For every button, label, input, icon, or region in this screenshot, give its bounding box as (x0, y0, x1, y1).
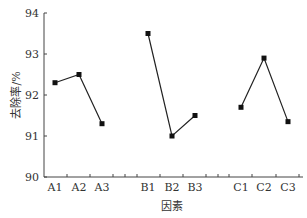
y-tick-label: 93 (25, 48, 39, 61)
data-point-marker (146, 31, 151, 36)
y-tick-label: 94 (25, 7, 39, 20)
x-tick-label: B3 (187, 181, 202, 194)
y-tick-label: 92 (25, 89, 39, 102)
series-group (53, 31, 291, 139)
data-point-marker (262, 56, 267, 61)
series-line-B (148, 34, 195, 137)
x-tick-label: A2 (71, 181, 87, 194)
line-chart: 9091929394A1A2A3B1B2B3C1C2C3 去除率/% 因素 (0, 0, 307, 218)
x-tick-label: C3 (280, 181, 295, 194)
x-tick-label: C2 (256, 181, 271, 194)
data-point-marker (286, 119, 291, 124)
data-point-marker (100, 121, 105, 126)
data-point-marker (77, 72, 82, 77)
y-tick-label: 90 (25, 171, 39, 184)
y-tick-label: 91 (25, 130, 39, 143)
x-tick-label: B2 (164, 181, 179, 194)
data-point-marker (239, 105, 244, 110)
x-tick-label: C1 (233, 181, 248, 194)
x-axis-label: 因素 (161, 200, 183, 213)
x-tick-label: B1 (140, 181, 155, 194)
x-tick-label: A1 (47, 181, 63, 194)
data-point-marker (193, 113, 198, 118)
data-point-marker (170, 134, 175, 139)
data-point-marker (53, 80, 58, 85)
y-axis-label: 去除率/% (9, 71, 23, 118)
series-line-C (241, 58, 288, 122)
x-tick-label: A3 (94, 181, 110, 194)
series-line-A (55, 75, 102, 124)
